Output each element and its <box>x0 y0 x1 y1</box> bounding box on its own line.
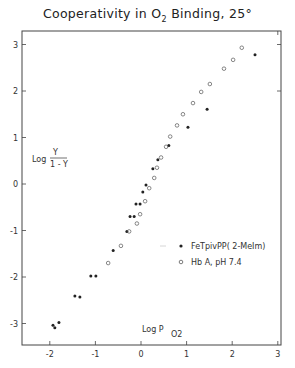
y-axis-label: Log Y 1 - Y <box>32 148 68 169</box>
filled-point <box>134 202 137 205</box>
x-tick-label: 0 <box>138 350 143 359</box>
filled-point <box>57 321 60 324</box>
open-point <box>231 58 235 62</box>
filled-point <box>78 295 81 298</box>
y-tick-label: 0 <box>13 180 18 189</box>
x-tick-label: 1 <box>184 350 189 359</box>
filled-point <box>129 215 132 218</box>
filled-point <box>141 190 144 193</box>
filled-point <box>112 249 115 252</box>
open-point <box>175 124 179 128</box>
open-point <box>138 212 142 216</box>
open-point <box>152 176 156 180</box>
y-tick-label: 3 <box>13 41 18 50</box>
open-point <box>106 261 110 265</box>
plot-frame <box>22 31 281 345</box>
filled-point <box>94 275 97 278</box>
filled-point <box>145 183 148 186</box>
open-point <box>199 90 203 94</box>
open-point <box>147 186 151 190</box>
open-point <box>168 135 172 139</box>
svg-text:FeTpivPP( 2-MeIm): FeTpivPP( 2-MeIm) <box>191 242 265 251</box>
x-tick-label: -2 <box>46 350 54 359</box>
x-tick-label: 2 <box>230 350 235 359</box>
legend: FeTpivPP( 2-MeIm) Hb A, pH 7.4 <box>160 242 265 267</box>
open-point <box>119 244 123 248</box>
y-tick-label: 2 <box>13 87 18 96</box>
filled-point <box>51 324 54 327</box>
filled-point <box>139 202 142 205</box>
filled-point <box>133 215 136 218</box>
svg-text:Y: Y <box>52 148 58 157</box>
filled-point <box>151 167 154 170</box>
y-tick-label: -3 <box>10 320 18 329</box>
filled-point <box>89 275 92 278</box>
legend-filled-marker <box>179 244 182 247</box>
filled-point <box>156 158 159 161</box>
svg-text:O2: O2 <box>171 330 182 339</box>
svg-text:Log: Log <box>32 155 46 164</box>
open-point <box>143 199 147 203</box>
x-tick-label: -1 <box>91 350 99 359</box>
open-point <box>181 112 185 116</box>
x-tick-label: 3 <box>275 350 280 359</box>
y-tick-label: -1 <box>10 227 18 236</box>
y-tick-label: 1 <box>13 134 18 143</box>
x-axis-label: Log P O2 <box>142 325 182 339</box>
filled-point <box>186 126 189 129</box>
svg-text:1 - Y: 1 - Y <box>50 160 68 169</box>
open-point <box>208 82 212 86</box>
plot-area: -2-10123 -3-2-10123 Log Y 1 - Y Log P O2… <box>0 0 295 368</box>
open-point <box>222 67 226 71</box>
svg-text:Hb A, pH 7.4: Hb A, pH 7.4 <box>191 258 242 267</box>
open-point <box>159 156 163 160</box>
data-points <box>51 46 256 329</box>
filled-point <box>206 108 209 111</box>
filled-point <box>73 295 76 298</box>
svg-text:Log P: Log P <box>142 325 164 334</box>
filled-point <box>254 53 257 56</box>
open-point <box>191 101 195 105</box>
open-point <box>135 222 139 226</box>
open-point <box>164 145 168 149</box>
open-point <box>155 166 159 170</box>
x-axis-ticks: -2-10123 <box>46 31 281 359</box>
y-tick-label: -2 <box>10 273 18 282</box>
legend-open-marker <box>179 260 183 264</box>
open-point <box>240 46 244 50</box>
